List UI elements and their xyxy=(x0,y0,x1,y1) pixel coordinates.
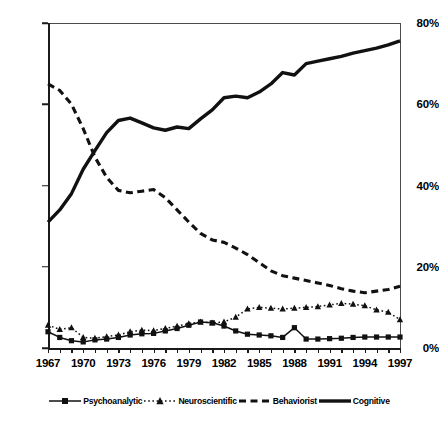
data-point-marker xyxy=(362,334,367,339)
legend-label: Cognitive xyxy=(352,396,391,406)
x-tick-mark xyxy=(130,348,131,353)
x-tick-label: 1970 xyxy=(71,357,95,369)
x-tick-mark xyxy=(365,348,366,353)
y-tick-label: 40% xyxy=(395,180,439,192)
legend-key-behaviorist-icon xyxy=(238,395,272,407)
data-point-marker xyxy=(233,328,238,333)
data-point-marker xyxy=(291,305,297,311)
data-point-marker xyxy=(245,332,250,337)
x-tick-mark xyxy=(236,348,237,353)
x-tick-mark xyxy=(259,348,260,353)
legend-label: Behaviorist xyxy=(272,396,318,406)
x-tick-label: 1997 xyxy=(388,357,412,369)
x-tick-mark xyxy=(271,348,272,353)
data-point-marker xyxy=(57,335,62,340)
x-tick-mark xyxy=(212,348,213,353)
x-tick-mark xyxy=(201,348,202,353)
series-cognitive xyxy=(48,41,400,222)
x-tick-mark xyxy=(224,348,225,353)
x-tick-mark xyxy=(388,348,389,353)
y-tick-label: 20% xyxy=(395,261,439,273)
legend-key-psychoanalytic-icon xyxy=(48,395,82,407)
x-tick-mark xyxy=(177,348,178,353)
x-tick-mark xyxy=(377,348,378,353)
data-point-marker xyxy=(57,326,63,332)
x-tick-mark xyxy=(341,348,342,353)
x-tick-label: 1976 xyxy=(141,357,165,369)
data-point-marker xyxy=(397,334,402,339)
y-tick-label: 60% xyxy=(395,98,439,110)
data-point-marker xyxy=(80,334,86,340)
x-tick-mark xyxy=(83,348,84,353)
x-tick-label: 1973 xyxy=(106,357,130,369)
data-point-marker xyxy=(268,333,273,338)
x-tick-label: 1985 xyxy=(247,357,271,369)
x-tick-mark xyxy=(107,348,108,353)
x-tick-mark xyxy=(71,348,72,353)
data-point-marker xyxy=(103,333,109,339)
data-point-marker xyxy=(150,327,156,333)
data-point-marker xyxy=(338,300,344,306)
legend-item-cognitive[interactable]: Cognitive xyxy=(318,395,391,407)
data-point-marker xyxy=(326,302,332,308)
x-tick-mark xyxy=(95,348,96,353)
data-point-marker xyxy=(280,335,285,340)
series-line xyxy=(48,41,400,222)
series-layer xyxy=(48,23,400,348)
x-tick-mark xyxy=(306,348,307,353)
x-tick-mark xyxy=(247,348,248,353)
x-tick-mark xyxy=(353,348,354,353)
data-point-marker xyxy=(374,334,379,339)
x-tick-mark xyxy=(189,348,190,353)
x-tick-label: 1967 xyxy=(36,357,60,369)
data-point-marker xyxy=(397,316,403,322)
x-tick-label: 1994 xyxy=(353,357,377,369)
x-tick-label: 1979 xyxy=(177,357,201,369)
data-point-marker xyxy=(268,305,274,311)
series-neuroscientific xyxy=(45,300,403,341)
chart-container: 0%20%40%60%80% 1967197019731976197919821… xyxy=(0,0,439,423)
x-tick-mark xyxy=(165,348,166,353)
data-point-marker xyxy=(221,319,227,325)
legend-item-behaviorist[interactable]: Behaviorist xyxy=(238,395,318,407)
legend-key-cognitive-icon xyxy=(318,395,352,407)
data-point-marker xyxy=(81,339,86,344)
data-point-marker xyxy=(386,334,391,339)
x-tick-mark xyxy=(400,348,401,353)
data-point-marker xyxy=(162,325,168,331)
legend-label: Psychoanalytic xyxy=(82,396,143,406)
x-tick-label: 1982 xyxy=(212,357,236,369)
data-point-marker xyxy=(350,301,356,307)
x-tick-mark xyxy=(48,348,49,353)
x-tick-label: 1988 xyxy=(282,357,306,369)
data-point-marker xyxy=(45,322,51,328)
series-line xyxy=(48,84,400,293)
y-tick-label: 0% xyxy=(395,342,439,354)
legend-item-psychoanalytic[interactable]: Psychoanalytic xyxy=(48,395,143,407)
x-tick-mark xyxy=(154,348,155,353)
legend-key-neuroscientific-icon xyxy=(143,395,177,407)
legend-label: Neuroscientific xyxy=(177,396,237,406)
data-point-marker xyxy=(339,336,344,341)
data-point-marker xyxy=(45,329,50,334)
x-tick-mark xyxy=(294,348,295,353)
x-tick-mark xyxy=(142,348,143,353)
legend-item-neuroscientific[interactable]: Neuroscientific xyxy=(143,395,237,407)
x-tick-mark xyxy=(283,348,284,353)
data-point-marker xyxy=(279,306,285,312)
data-point-marker xyxy=(304,336,309,341)
data-point-marker xyxy=(292,325,297,330)
data-point-marker xyxy=(174,323,180,329)
data-point-marker xyxy=(315,336,320,341)
chart-legend: PsychoanalyticNeuroscientificBehaviorist… xyxy=(0,391,439,411)
data-point-marker xyxy=(257,332,262,337)
plot-area xyxy=(48,23,400,348)
data-point-marker xyxy=(233,314,239,320)
series-behaviorist xyxy=(48,84,400,293)
x-tick-mark xyxy=(60,348,61,353)
x-tick-mark xyxy=(330,348,331,353)
x-tick-mark xyxy=(318,348,319,353)
x-tick-label: 1991 xyxy=(317,357,341,369)
data-point-marker xyxy=(327,336,332,341)
data-point-marker xyxy=(350,335,355,340)
